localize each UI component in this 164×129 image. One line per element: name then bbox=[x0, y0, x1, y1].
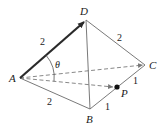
vertex-label-c: C bbox=[149, 59, 157, 71]
edge-dc bbox=[86, 20, 145, 65]
vector-ad bbox=[20, 22, 84, 78]
vertex-label-a: A bbox=[8, 72, 16, 84]
point-p-dot bbox=[114, 84, 119, 89]
edge-ac-dashed bbox=[20, 65, 143, 78]
tetrahedron-diagram: A D C B P θ 2 2 2 1 1 bbox=[0, 0, 164, 129]
edge-label-ad: 2 bbox=[40, 36, 45, 47]
edge-label-pc: 1 bbox=[133, 75, 138, 86]
vertex-label-b: B bbox=[86, 113, 93, 125]
edge-label-bp: 1 bbox=[105, 101, 110, 112]
edge-label-dc: 2 bbox=[117, 32, 122, 43]
edge-db bbox=[86, 20, 90, 109]
angle-label-theta: θ bbox=[55, 59, 60, 70]
edge-ap-dashed bbox=[20, 78, 113, 87]
vertex-label-d: D bbox=[79, 5, 88, 17]
edge-label-ab: 2 bbox=[47, 96, 52, 107]
point-label-p: P bbox=[120, 87, 128, 99]
angle-arc-theta bbox=[46, 55, 54, 81]
edge-ab bbox=[20, 78, 90, 109]
